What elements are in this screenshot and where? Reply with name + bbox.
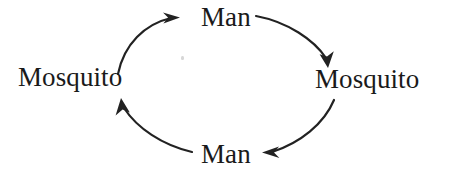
node-label-man-top: Man — [201, 4, 251, 31]
scan-artifact-speck — [181, 56, 184, 60]
arrowhead-left-into-man-bottom — [262, 146, 279, 158]
edge-man-bottom-to-mosquito-left — [116, 98, 192, 152]
node-label-mosquito-right: Mosquito — [315, 66, 419, 93]
transmission-cycle-diagram: Mosquito Man Mosquito Man — [0, 0, 449, 179]
arrowhead-right-into-man-top — [163, 12, 180, 23]
node-label-mosquito-left: Mosquito — [18, 64, 122, 91]
edge-man-top-to-mosquito-right — [256, 16, 334, 68]
arc-man-top-to-mosquito-right — [256, 16, 326, 58]
arc-mosquito-left-to-man-top — [118, 18, 171, 74]
edge-mosquito-left-to-man-top — [118, 12, 180, 74]
arc-man-bottom-to-mosquito-left — [124, 108, 192, 152]
node-label-man-bottom: Man — [201, 141, 251, 168]
arc-mosquito-right-to-man-bottom — [272, 100, 334, 152]
edge-mosquito-right-to-man-bottom — [262, 100, 334, 158]
